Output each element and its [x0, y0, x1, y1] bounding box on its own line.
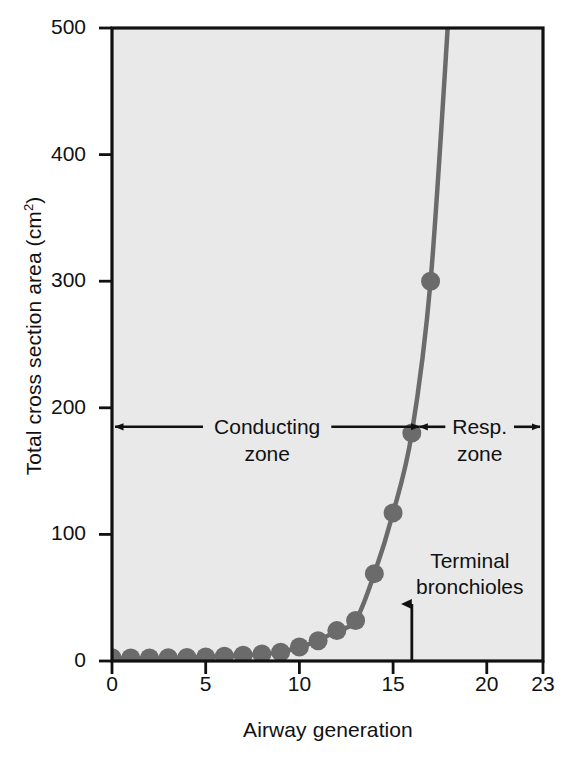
data-point-gen-9 — [271, 643, 290, 662]
resp-zone-label-line2: zone — [457, 442, 503, 465]
data-point-gen-17 — [421, 272, 440, 291]
data-point-gen-12 — [327, 621, 346, 640]
data-point-gen-3 — [159, 648, 178, 667]
conducting-zone-label-line2: zone — [244, 442, 290, 465]
terminal-bronchioles-label-line2: bronchioles — [416, 575, 523, 598]
chart-figure: Total cross section area (cm2) 010020030… — [0, 0, 570, 759]
data-point-gen-4 — [177, 648, 196, 667]
y-axis-ticks — [99, 28, 112, 661]
x-axis-ticks — [112, 661, 543, 674]
plot-canvas: Conducting zone Resp. zone Terminal bron… — [0, 0, 570, 759]
conducting-zone-label-line1: Conducting — [214, 415, 320, 438]
resp-zone-label-line1: Resp. — [452, 415, 507, 438]
data-point-gen-6 — [215, 647, 234, 666]
data-point-gen-2 — [140, 649, 159, 668]
data-point-gen-10 — [290, 638, 309, 657]
data-point-gen-15 — [384, 503, 403, 522]
data-point-gen-1 — [121, 649, 140, 668]
terminal-bronchioles-label-line1: Terminal — [430, 549, 509, 572]
data-point-gen-11 — [309, 631, 328, 650]
data-point-gen-13 — [346, 611, 365, 630]
data-point-gen-14 — [365, 564, 384, 583]
